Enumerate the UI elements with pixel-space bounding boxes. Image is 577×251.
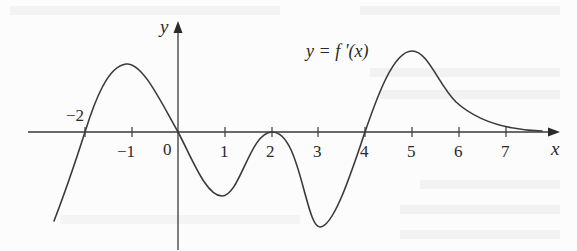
- tick-label-1: 1: [220, 142, 229, 161]
- curve-label: y = f ′(x): [304, 41, 369, 62]
- graph-canvas: −2 −1 0 1 2 3 4 5 6 7 x y y = f ′(x): [0, 0, 577, 251]
- tick-label-5: 5: [407, 142, 416, 161]
- background-bleed-text: [10, 6, 560, 239]
- x-axis-label: x: [550, 138, 560, 159]
- derivative-graph-figure: −2 −1 0 1 2 3 4 5 6 7 x y y = f ′(x): [0, 0, 577, 251]
- tick-label-neg2: −2: [66, 106, 84, 125]
- y-axis-arrow-icon: [174, 21, 183, 33]
- tick-label-3: 3: [313, 142, 322, 161]
- tick-label-6: 6: [454, 142, 463, 161]
- tick-label-4: 4: [360, 142, 369, 161]
- derivative-curve: [54, 51, 542, 227]
- tick-label-neg1: −1: [117, 142, 135, 161]
- x-axis: [28, 128, 560, 137]
- y-axis-label: y: [158, 16, 169, 37]
- tick-label-2: 2: [266, 142, 275, 161]
- x-tick-labels: −2 −1 0 1 2 3 4 5 6 7: [66, 106, 510, 161]
- tick-label-7: 7: [501, 142, 510, 161]
- tick-label-0: 0: [163, 140, 172, 159]
- x-axis-arrow-icon: [548, 128, 560, 137]
